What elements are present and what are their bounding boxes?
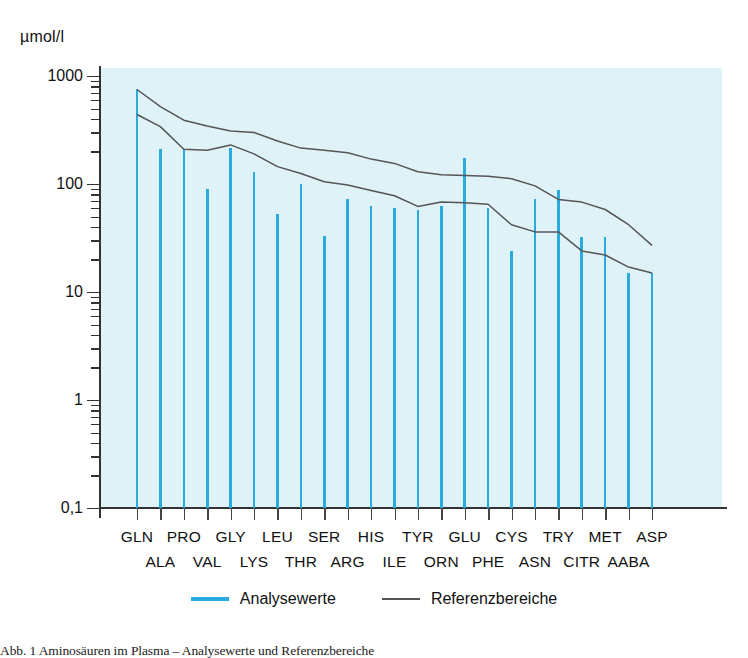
y-tick-minor xyxy=(91,93,100,94)
y-tick-major xyxy=(87,292,100,293)
y-tick-label: 100 xyxy=(56,175,83,193)
x-tick xyxy=(582,507,583,520)
bar xyxy=(253,172,256,508)
y-tick-minor xyxy=(91,456,100,457)
category-label-val: VAL xyxy=(193,553,222,571)
y-tick-minor xyxy=(91,201,100,202)
y-tick-minor xyxy=(91,325,100,326)
y-axis-unit-label: µmol/l xyxy=(20,28,64,46)
y-tick-major xyxy=(87,184,100,185)
category-label-ala: ALA xyxy=(145,553,175,571)
x-tick xyxy=(160,507,161,520)
x-tick xyxy=(441,507,442,520)
category-label-aaba: AABA xyxy=(608,553,650,571)
bar xyxy=(440,206,443,508)
legend-item-analyse: Analysewerte xyxy=(191,590,336,608)
x-tick xyxy=(535,507,536,520)
y-tick-minor xyxy=(91,443,100,444)
bar xyxy=(580,237,583,508)
x-tick xyxy=(629,507,630,520)
y-tick-minor xyxy=(91,424,100,425)
y-tick-minor xyxy=(91,151,100,152)
bar xyxy=(276,214,279,508)
category-label-orn: ORN xyxy=(424,553,459,571)
category-label-asp: ASP xyxy=(636,528,668,546)
bar xyxy=(159,149,162,508)
category-label-tyr: TYR xyxy=(402,528,434,546)
bar xyxy=(510,251,513,508)
x-tick xyxy=(418,507,419,520)
x-tick xyxy=(231,507,232,520)
category-label-pro: PRO xyxy=(167,528,201,546)
y-tick-minor xyxy=(91,297,100,298)
y-tick-minor xyxy=(91,119,100,120)
bar xyxy=(651,273,654,508)
y-tick-minor xyxy=(91,302,100,303)
x-tick xyxy=(137,507,138,520)
y-tick-minor xyxy=(91,309,100,310)
bar xyxy=(370,206,373,508)
amino-acid-chart-figure: µmol/l 10001001010,1 GLNALAPROVALGLYLYSL… xyxy=(0,0,748,658)
category-label-ser: SER xyxy=(308,528,340,546)
x-axis-line xyxy=(99,507,727,509)
y-tick-minor xyxy=(91,367,100,368)
bar xyxy=(300,184,303,508)
x-tick xyxy=(558,507,559,520)
bar xyxy=(604,237,607,508)
y-tick-label: 10 xyxy=(65,283,83,301)
y-tick-minor xyxy=(91,335,100,336)
x-tick xyxy=(605,507,606,520)
x-tick xyxy=(324,507,325,520)
bar xyxy=(463,158,466,508)
legend-item-referenz: Referenzbereiche xyxy=(382,590,557,608)
legend-swatch-icon xyxy=(382,598,420,600)
bar xyxy=(346,199,349,508)
y-tick-minor xyxy=(91,410,100,411)
category-label-gln: GLN xyxy=(121,528,153,546)
legend-swatch-icon xyxy=(191,597,229,600)
category-label-leu: LEU xyxy=(262,528,293,546)
category-label-citr: CITR xyxy=(563,553,600,571)
y-tick-minor xyxy=(91,194,100,195)
y-tick-major xyxy=(87,400,100,401)
category-label-ile: ILE xyxy=(383,553,407,571)
bar xyxy=(393,208,396,508)
bar xyxy=(487,208,490,508)
category-label-thr: THR xyxy=(285,553,317,571)
y-tick-minor xyxy=(91,240,100,241)
bar xyxy=(229,148,232,508)
y-tick-minor xyxy=(91,316,100,317)
bar xyxy=(183,149,186,508)
y-tick-major xyxy=(87,76,100,77)
y-tick-minor xyxy=(91,81,100,82)
y-tick-minor xyxy=(91,259,100,260)
category-label-his: HIS xyxy=(358,528,384,546)
y-tick-minor xyxy=(91,433,100,434)
x-tick xyxy=(184,507,185,520)
chart-legend: AnalysewerteReferenzbereiche xyxy=(0,590,748,608)
category-label-glu: GLU xyxy=(448,528,480,546)
x-tick xyxy=(277,507,278,520)
x-tick xyxy=(652,507,653,520)
x-tick xyxy=(488,507,489,520)
bar xyxy=(557,190,560,508)
bar xyxy=(206,189,209,508)
y-tick-minor xyxy=(91,109,100,110)
x-tick xyxy=(301,507,302,520)
x-tick xyxy=(207,507,208,520)
figure-caption-text: Abb. 1 Aminosäuren im Plasma – Analysewe… xyxy=(0,646,748,658)
y-tick-minor xyxy=(91,208,100,209)
legend-label: Analysewerte xyxy=(240,590,336,608)
category-label-phe: PHE xyxy=(472,553,504,571)
legend-label: Referenzbereiche xyxy=(431,590,557,608)
y-tick-minor xyxy=(91,348,100,349)
y-tick-minor xyxy=(91,189,100,190)
x-tick xyxy=(348,507,349,520)
y-tick-minor xyxy=(91,86,100,87)
x-tick xyxy=(512,507,513,520)
figure-caption: Abb. 1 Aminosäuren im Plasma – Analysewe… xyxy=(0,646,748,658)
y-tick-label: 0,1 xyxy=(61,499,83,517)
category-label-cys: CYS xyxy=(495,528,527,546)
bar xyxy=(627,273,630,508)
y-tick-label: 1 xyxy=(74,391,83,409)
